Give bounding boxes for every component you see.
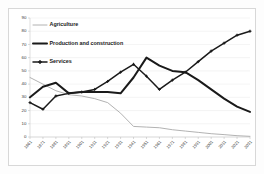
x-axis-tick-label: 1871	[36, 139, 46, 150]
legend-item[interactable]: Services	[33, 58, 72, 64]
legend-item[interactable]: Production and construction	[33, 40, 123, 46]
legend-label: Production and construction	[50, 40, 124, 46]
y-axis-tick-label: 70	[22, 42, 27, 47]
x-axis-tick-label: 1931	[114, 139, 124, 150]
y-axis-tick-label: 10	[22, 121, 27, 126]
x-axis-tick-label: 2031	[243, 139, 253, 150]
x-axis-tick-label: 1981	[178, 139, 188, 150]
grid-lines	[30, 18, 250, 137]
x-axis-tick-label: 1951	[139, 139, 149, 150]
y-axis-tick-label: 90	[22, 15, 27, 20]
x-axis-tick-label: 1971	[165, 139, 175, 150]
legend-label: Agriculture	[50, 21, 79, 27]
line-chart: 0102030405060708090 18611871188118911901…	[0, 0, 264, 174]
x-axis-tick-label: 2001	[204, 139, 214, 150]
series-line-production-and-construction	[30, 58, 250, 112]
x-axis: 1861187118811891190119111921193119411951…	[23, 137, 253, 150]
y-axis-tick-label: 40	[22, 81, 27, 86]
y-axis-tick-label: 30	[22, 94, 27, 99]
x-axis-tick-label: 1961	[152, 139, 162, 150]
series-line-agriculture	[30, 78, 250, 137]
y-axis-tick-label: 50	[22, 68, 27, 73]
x-axis-tick-label: 1891	[62, 139, 72, 150]
chart-legend: AgricultureProduction and constructionSe…	[33, 21, 123, 64]
x-axis-tick-label: 1861	[23, 139, 33, 150]
x-axis-tick-label: 1991	[191, 139, 201, 150]
y-axis-tick-label: 60	[22, 55, 27, 60]
x-axis-tick-label: 2021	[230, 139, 240, 150]
y-axis: 0102030405060708090	[22, 15, 250, 139]
y-axis-tick-label: 80	[22, 28, 27, 33]
x-axis-tick-label: 1911	[88, 139, 98, 150]
x-axis-tick-label: 1921	[101, 139, 111, 150]
y-axis-tick-label: 0	[24, 134, 27, 139]
chart-container: 0102030405060708090 18611871188118911901…	[0, 0, 264, 174]
x-axis-tick-label: 1881	[49, 139, 59, 150]
legend-label: Services	[50, 58, 72, 64]
x-axis-tick-label: 1941	[127, 139, 137, 150]
y-axis-tick-label: 20	[22, 108, 27, 113]
x-axis-tick-label: 1901	[75, 139, 85, 150]
legend-item[interactable]: Agriculture	[33, 21, 78, 27]
x-axis-tick-label: 2011	[217, 139, 227, 150]
legend-swatch-marker	[38, 60, 42, 64]
